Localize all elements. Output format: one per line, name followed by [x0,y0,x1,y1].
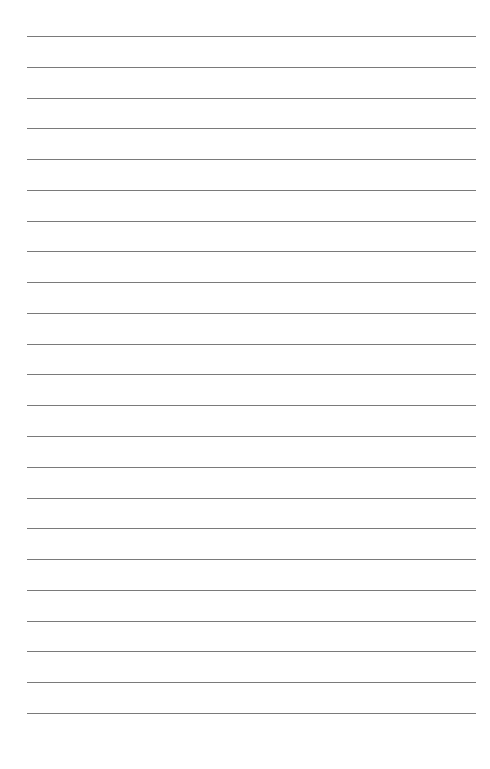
ruled-line [27,374,476,375]
ruled-line [27,67,476,68]
ruled-line [27,190,476,191]
ruled-line [27,467,476,468]
ruled-line [27,559,476,560]
ruled-line [27,651,476,652]
ruled-line [27,344,476,345]
ruled-line [27,159,476,160]
ruled-line [27,621,476,622]
ruled-line [27,221,476,222]
ruled-line [27,528,476,529]
ruled-line [27,713,476,714]
ruled-line [27,405,476,406]
lined-paper-page [0,0,490,769]
ruled-line [27,282,476,283]
ruled-line [27,682,476,683]
ruled-line [27,36,476,37]
ruled-line [27,436,476,437]
ruled-line [27,590,476,591]
ruled-line [27,98,476,99]
ruled-line [27,251,476,252]
ruled-line [27,313,476,314]
ruled-line [27,128,476,129]
ruled-line [27,498,476,499]
